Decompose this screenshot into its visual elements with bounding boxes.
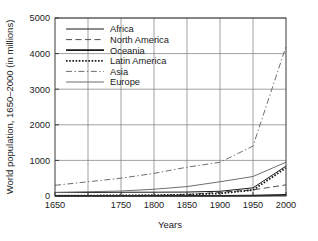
chart-figure: 0100020003000400050001650175018001850190… <box>0 0 318 241</box>
x-tick-label: 1750 <box>111 200 131 210</box>
y-tick-label: 3000 <box>30 85 50 95</box>
legend-label-africa: Africa <box>110 24 135 34</box>
y-tick-label: 5000 <box>30 13 50 23</box>
legend-label-oceania: Oceania <box>110 46 145 56</box>
x-axis-title: Years <box>158 219 182 230</box>
y-tick-label: 1000 <box>30 156 50 166</box>
legend-label-europe: Europe <box>110 77 140 87</box>
x-tick-label: 2000 <box>276 200 296 210</box>
population-line-chart: 0100020003000400050001650175018001850190… <box>0 0 318 241</box>
x-tick-label: 1650 <box>45 200 65 210</box>
x-tick-label: 1900 <box>210 200 230 210</box>
legend-label-latin-america: Latin America <box>110 56 167 66</box>
y-tick-label: 4000 <box>30 49 50 59</box>
legend-label-north-america: North America <box>110 35 170 45</box>
x-tick-label: 1800 <box>144 200 164 210</box>
x-tick-label: 1850 <box>177 200 197 210</box>
legend-label-asia: Asia <box>110 67 129 77</box>
y-tick-label: 2000 <box>30 120 50 130</box>
x-tick-label: 1950 <box>243 200 263 210</box>
y-axis-title: World population, 1650–2000 (in millions… <box>4 20 15 195</box>
plot-background <box>55 18 286 196</box>
